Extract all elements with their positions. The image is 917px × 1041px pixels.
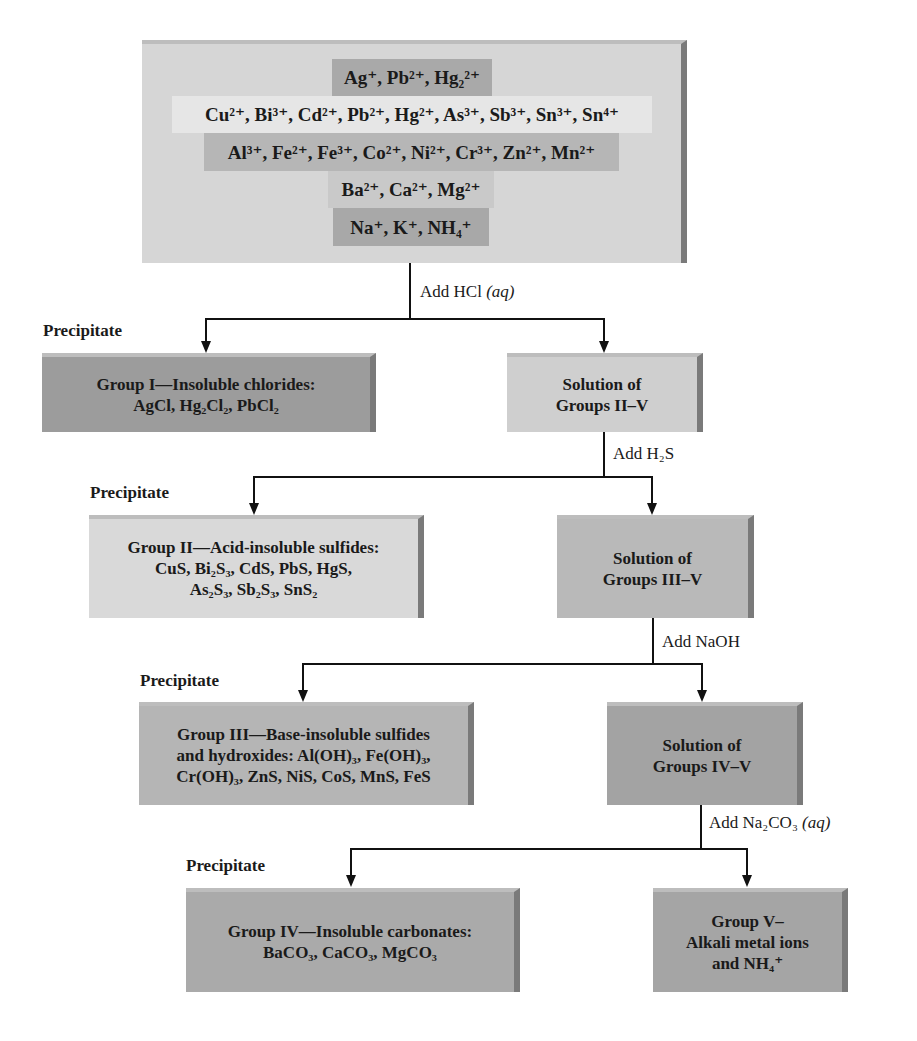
box-title: Group II—Acid-insoluble sulfides: <box>128 537 380 558</box>
connector-line <box>701 663 703 691</box>
arrow-down-icon <box>201 341 211 353</box>
arrow-down-icon <box>647 503 657 515</box>
solution-groups-4-5-box: Solution of Groups IV–V <box>607 702 803 805</box>
reagent-state: (aq) <box>486 282 514 301</box>
box-title: Group IV—Insoluble carbonates: <box>228 921 472 942</box>
connector-line <box>205 318 605 320</box>
reagent-name: Add HCl <box>420 282 482 301</box>
cation-row-group-5: Na⁺, K⁺, NH₄⁺ <box>333 208 489 246</box>
reagent-name: Add Na₂CO₃ <box>709 813 798 832</box>
connector-line <box>652 618 654 664</box>
reagent-label-h2s: Add H₂S <box>613 444 674 464</box>
connector-line <box>253 476 255 504</box>
group-2-precipitate-box: Group II—Acid-insoluble sulfides: CuS, B… <box>89 515 424 618</box>
box-title: Group I—Insoluble chlorides: <box>97 374 316 395</box>
reagent-name: Add H₂S <box>613 444 674 463</box>
reagent-label-hcl: Add HCl (aq) <box>420 282 514 302</box>
box-line: Solution of <box>663 735 742 756</box>
reagent-state: (aq) <box>802 813 830 832</box>
box-line: Groups III–V <box>603 569 702 590</box>
group-1-precipitate-box: Group I—Insoluble chlorides: AgCl, Hg₂Cl… <box>42 353 376 432</box>
box-line: Solution of <box>613 548 692 569</box>
box-line: Alkali metal ions <box>686 932 809 953</box>
precipitate-label: Precipitate <box>140 671 219 691</box>
box-line: Solution of <box>563 374 642 395</box>
cation-row-group-2: Cu²⁺, Bi³⁺, Cd²⁺, Pb²⁺, Hg²⁺, As³⁺, Sb³⁺… <box>172 96 652 133</box>
connector-line <box>603 318 605 342</box>
connector-line <box>746 848 748 876</box>
box-line: BaCO₃, CaCO₃, MgCO₃ <box>263 942 437 963</box>
arrow-down-icon <box>346 875 356 887</box>
group-3-precipitate-box: Group III—Base-insoluble sulfides and hy… <box>139 702 474 805</box>
cation-row-group-4: Ba²⁺, Ca²⁺, Mg²⁺ <box>328 171 494 208</box>
box-line: AgCl, Hg₂Cl₂, PbCl₂ <box>133 395 279 416</box>
arrow-down-icon <box>697 690 707 702</box>
connector-line <box>205 318 207 342</box>
group-4-precipitate-box: Group IV—Insoluble carbonates: BaCO₃, Ca… <box>186 888 520 992</box>
box-line: Groups IV–V <box>653 756 751 777</box>
cation-row-group-1: Ag⁺, Pb²⁺, Hg₂²⁺ <box>332 59 492 96</box>
arrow-down-icon <box>599 341 609 353</box>
connector-line <box>603 432 605 477</box>
connector-line <box>651 476 653 504</box>
reagent-label-naoh: Add NaOH <box>662 632 740 652</box>
connector-line <box>409 263 411 319</box>
reagent-label-na2co3: Add Na₂CO₃ (aq) <box>709 813 830 833</box>
precipitate-label: Precipitate <box>186 856 265 876</box>
cation-row-group-3: Al³⁺, Fe²⁺, Fe³⁺, Co²⁺, Ni²⁺, Cr³⁺, Zn²⁺… <box>204 133 619 171</box>
group-5-solution-box: Group V– Alkali metal ions and NH₄⁺ <box>653 888 848 992</box>
arrow-down-icon <box>742 875 752 887</box>
box-line: CuS, Bi₂S₃, CdS, PbS, HgS, <box>155 558 352 579</box>
box-title: Group III—Base-insoluble sulfides <box>177 724 430 745</box>
box-line: Groups II–V <box>556 395 649 416</box>
box-line: and NH₄⁺ <box>712 953 783 974</box>
precipitate-label: Precipitate <box>43 321 122 341</box>
box-line: Cr(OH)₃, ZnS, NiS, CoS, MnS, FeS <box>176 766 430 787</box>
arrow-down-icon <box>249 503 259 515</box>
solution-groups-3-5-box: Solution of Groups III–V <box>557 515 754 618</box>
connector-line <box>700 805 702 849</box>
box-line: Group V– <box>711 911 784 932</box>
box-line: and hydroxides: Al(OH)₃, Fe(OH)₃, <box>176 745 430 766</box>
connector-line <box>302 663 703 665</box>
solution-groups-2-5-box: Solution of Groups II–V <box>507 353 703 432</box>
connector-line <box>253 476 653 478</box>
connector-line <box>302 663 304 691</box>
arrow-down-icon <box>298 690 308 702</box>
box-line: As₂S₃, Sb₂S₃, SnS₂ <box>190 579 318 600</box>
precipitate-label: Precipitate <box>90 483 169 503</box>
connector-line <box>350 848 352 876</box>
reagent-name: Add NaOH <box>662 632 740 651</box>
connector-line <box>350 848 748 850</box>
